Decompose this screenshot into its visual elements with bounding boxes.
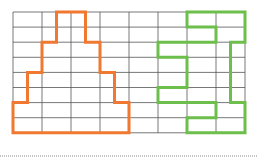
grid-diagram — [0, 0, 266, 161]
